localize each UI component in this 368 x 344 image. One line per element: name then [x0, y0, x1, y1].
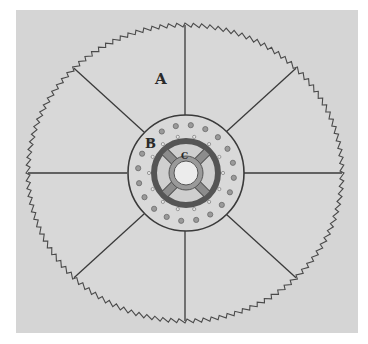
label-c: C	[181, 151, 188, 161]
label-a: A	[154, 70, 167, 88]
hub	[128, 115, 244, 231]
label-b: B	[145, 136, 156, 151]
saw-blade-diagram: A B C	[0, 0, 368, 344]
